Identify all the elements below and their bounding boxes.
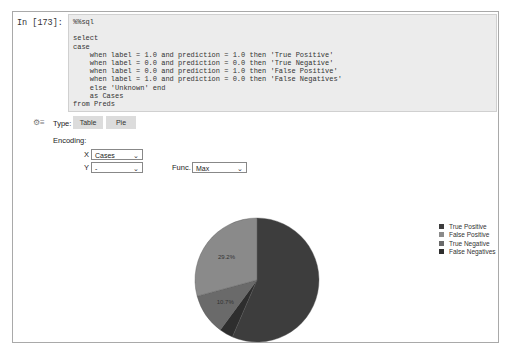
legend-item-false-positive[interactable]: False Positive bbox=[439, 231, 496, 240]
legend-item-false-negatives[interactable]: False Negatives bbox=[439, 248, 496, 257]
legend-item-true-positive[interactable]: True Positive bbox=[439, 222, 496, 231]
legend-swatch bbox=[439, 249, 444, 254]
pie-slice-label: 10.7% bbox=[217, 299, 235, 305]
legend-item-true-negative[interactable]: True Negative bbox=[439, 239, 496, 248]
pie-slice-label: 29.2% bbox=[218, 254, 236, 260]
legend-label: False Negatives bbox=[449, 248, 496, 255]
legend-label: True Positive bbox=[449, 223, 487, 230]
chart-legend: True Positive False Positive True Negati… bbox=[439, 222, 496, 256]
legend-swatch bbox=[439, 232, 444, 237]
legend-label: True Negative bbox=[449, 240, 490, 247]
legend-swatch bbox=[439, 224, 444, 229]
legend-label: False Positive bbox=[449, 231, 489, 238]
pie-chart: 10.7%29.2% bbox=[0, 0, 509, 355]
legend-swatch bbox=[439, 241, 444, 246]
